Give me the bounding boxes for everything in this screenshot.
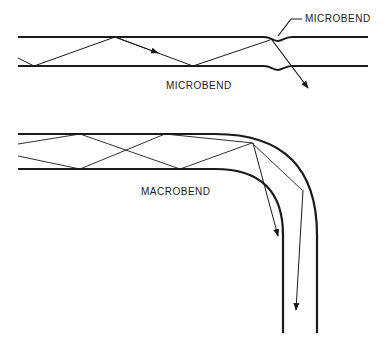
microbend-light-ray	[18, 37, 270, 66]
microbend-caption: MICROBEND	[166, 80, 232, 91]
microbend-leader-line	[278, 19, 302, 36]
microbend-fiber	[18, 19, 368, 88]
macrobend-fiber	[18, 134, 317, 333]
escaping-ray-arrow	[272, 40, 308, 88]
macrobend-caption: MACROBEND	[141, 186, 211, 197]
escaping-ray-arrow-inner	[253, 143, 278, 236]
microbend-core-bottom-wall	[18, 66, 368, 70]
bend-diagram	[0, 0, 384, 351]
macrobend-ray-1	[18, 134, 302, 190]
macrobend-ray-2	[18, 134, 253, 169]
microbend-callout-label: MICROBEND	[305, 13, 371, 24]
microbend-core-top-wall	[18, 37, 368, 41]
ray-direction-arrow	[115, 37, 158, 53]
macrobend-outer-wall	[18, 134, 317, 333]
escaping-ray-arrow-outer	[296, 190, 303, 310]
